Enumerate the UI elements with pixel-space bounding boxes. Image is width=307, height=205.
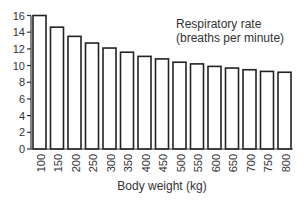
bar-750 bbox=[261, 71, 274, 149]
y-tick-label: 10 bbox=[13, 60, 25, 72]
y-axis: 0246810121416 bbox=[13, 10, 31, 156]
bar-100 bbox=[33, 16, 46, 150]
x-tick-label: 300 bbox=[105, 154, 117, 172]
y-tick-label: 4 bbox=[19, 110, 25, 122]
y-tick-label: 12 bbox=[13, 43, 25, 55]
x-tick-label: 600 bbox=[210, 154, 222, 172]
y-tick-label: 14 bbox=[13, 26, 25, 38]
bar-800 bbox=[278, 72, 291, 149]
annotation-line-2: (breaths per minute) bbox=[176, 31, 284, 45]
y-tick-label: 16 bbox=[13, 10, 25, 22]
x-axis-title: Body weight (kg) bbox=[117, 179, 206, 193]
bar-600 bbox=[208, 66, 221, 149]
x-tick-label: 500 bbox=[175, 154, 187, 172]
bar-500 bbox=[173, 62, 186, 149]
y-tick-label: 0 bbox=[19, 143, 25, 155]
x-tick-label: 650 bbox=[227, 154, 239, 172]
bar-chart: 0246810121416 10015020025030035040045050… bbox=[0, 0, 307, 205]
y-tick-label: 8 bbox=[19, 76, 25, 88]
y-tick-label: 2 bbox=[19, 126, 25, 138]
x-tick-label: 250 bbox=[87, 154, 99, 172]
bar-550 bbox=[191, 64, 204, 149]
bar-400 bbox=[138, 56, 151, 149]
x-tick-label: 750 bbox=[262, 154, 274, 172]
x-tick-label: 450 bbox=[157, 154, 169, 172]
bar-650 bbox=[226, 68, 239, 149]
x-tick-label: 200 bbox=[70, 154, 82, 172]
annotation-line-1: Respiratory rate bbox=[176, 17, 262, 31]
x-tick-label: 350 bbox=[122, 154, 134, 172]
bar-450 bbox=[156, 59, 169, 149]
bar-700 bbox=[243, 70, 256, 149]
bar-150 bbox=[51, 27, 64, 149]
x-tick-label: 700 bbox=[245, 154, 257, 172]
bar-300 bbox=[103, 48, 116, 149]
x-tick-label: 100 bbox=[35, 154, 47, 172]
bar-200 bbox=[68, 36, 81, 149]
bar-250 bbox=[86, 43, 99, 149]
bar-350 bbox=[121, 52, 134, 149]
x-tick-label: 150 bbox=[52, 154, 64, 172]
x-axis: 1001502002503003504004505005506006507007… bbox=[31, 149, 293, 172]
y-tick-label: 6 bbox=[19, 93, 25, 105]
x-tick-label: 400 bbox=[140, 154, 152, 172]
x-tick-label: 550 bbox=[192, 154, 204, 172]
x-tick-label: 800 bbox=[280, 154, 292, 172]
